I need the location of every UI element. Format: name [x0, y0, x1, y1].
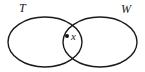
element-point-dot	[65, 34, 69, 38]
set-label-t: T	[19, 2, 26, 14]
element-label-x: x	[71, 31, 76, 42]
set-ellipse-w	[63, 17, 137, 67]
venn-diagram-figure: T W x	[0, 0, 145, 72]
set-label-w: W	[121, 3, 131, 15]
set-ellipse-t	[8, 17, 82, 67]
